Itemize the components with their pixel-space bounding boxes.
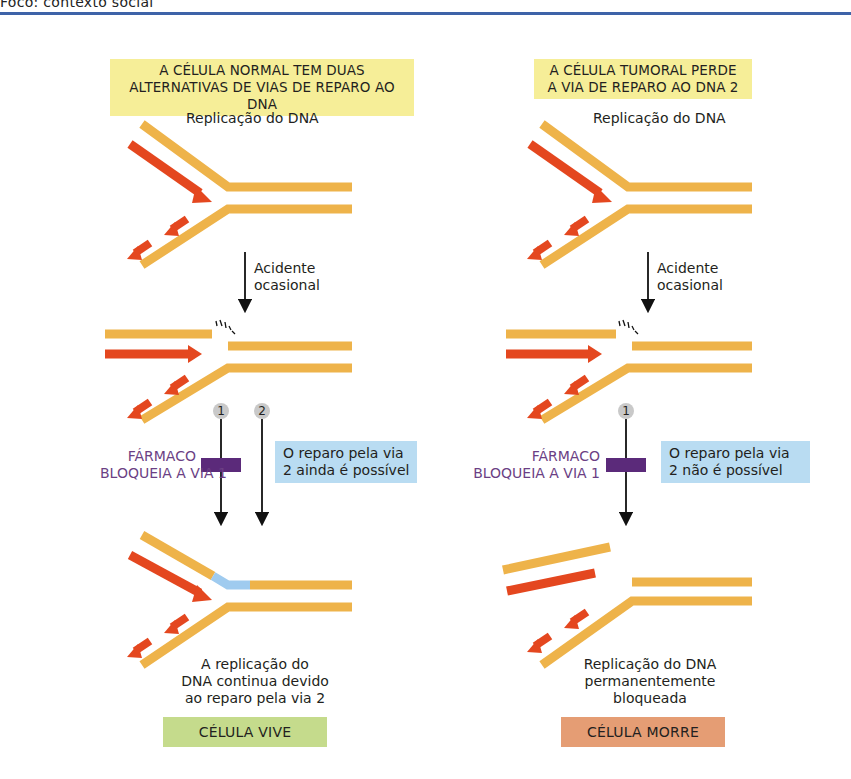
left-info-line-1: O reparo pela via: [283, 445, 409, 462]
right-outcome-line-2: permanentemente: [575, 673, 725, 690]
left-outcome-line-3: ao reparo pela via 2: [180, 690, 330, 707]
left-accident-line-2: ocasional: [254, 277, 320, 294]
left-info-box: O reparo pela via 2 ainda é possível: [275, 441, 417, 483]
left-drug-label: FÁRMACO BLOQUEIA A VIA 1: [100, 448, 196, 482]
left-outcome-line-1: A replicação do: [180, 656, 330, 673]
left-drug-line-1: FÁRMACO: [100, 448, 196, 465]
left-header-line-1: A CÉLULA NORMAL TEM DUAS: [116, 62, 408, 79]
left-outcome-label: A replicação do DNA continua devido ao r…: [180, 656, 330, 707]
left-replication-label: Replicação do DNA: [186, 110, 319, 127]
left-accident-line-1: Acidente: [254, 260, 320, 277]
right-replication-label: Replicação do DNA: [593, 110, 726, 127]
right-header-line-2: A VIA DE REPARO AO DNA 2: [540, 79, 746, 96]
right-outcome-label: Replicação do DNA permanentemente bloque…: [575, 656, 725, 707]
left-header-line-2: ALTERNATIVAS DE VIAS DE REPARO AO DNA: [116, 79, 408, 113]
right-pathway-1-number: 1: [618, 403, 634, 420]
left-replication-fork-1: [127, 124, 352, 265]
left-accident-label: Acidente ocasional: [254, 260, 320, 294]
right-drug-label: FÁRMACO BLOQUEIA A VIA 1: [450, 448, 600, 482]
right-panel-header: A CÉLULA TUMORAL PERDE A VIA DE REPARO A…: [534, 59, 752, 99]
right-drug-line-2: BLOQUEIA A VIA 1: [450, 465, 600, 482]
right-info-line-1: O reparo pela via: [669, 445, 802, 462]
left-pathway-1-number: 1: [213, 403, 229, 420]
left-outcome-line-2: DNA continua devido: [180, 673, 330, 690]
left-pathway-2-number: 2: [254, 403, 270, 420]
cell-lives-badge: CÉLULA VIVE: [163, 717, 327, 747]
right-drug-line-1: FÁRMACO: [450, 448, 600, 465]
right-outcome-line-1: Replicação do DNA: [575, 656, 725, 673]
left-drug-line-2: BLOQUEIA A VIA 1: [100, 465, 196, 482]
left-replication-fork-3: [127, 535, 352, 665]
right-drug-block: [606, 458, 646, 472]
right-info-box: O reparo pela via 2 não é possível: [661, 441, 810, 483]
right-replication-fork-3: [503, 547, 752, 665]
right-info-line-2: 2 não é possível: [669, 462, 802, 479]
right-accident-line-1: Acidente: [657, 260, 723, 277]
right-accident-label: Acidente ocasional: [657, 260, 723, 294]
right-accident-line-2: ocasional: [657, 277, 723, 294]
left-panel-header: A CÉLULA NORMAL TEM DUAS ALTERNATIVAS DE…: [110, 59, 414, 116]
left-info-line-2: 2 ainda é possível: [283, 462, 409, 479]
right-header-line-1: A CÉLULA TUMORAL PERDE: [540, 62, 746, 79]
cell-dies-badge: CÉLULA MORRE: [561, 717, 725, 747]
right-replication-fork-1: [527, 124, 752, 265]
right-outcome-line-3: bloqueada: [575, 690, 725, 707]
